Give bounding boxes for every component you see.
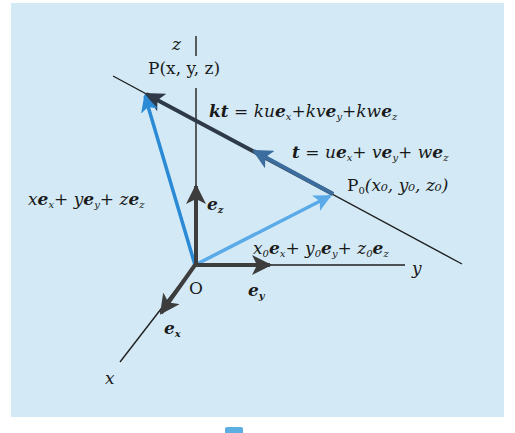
ez-label: ez xyxy=(207,196,224,215)
t-equation: t = uex+ vey+ wez xyxy=(292,144,448,163)
t-rhs: uex+ vey+ wez xyxy=(325,142,448,162)
ex-label: ex xyxy=(164,320,181,339)
y-axis-label: y xyxy=(412,260,422,277)
t-eq: = xyxy=(305,142,319,162)
kt-rhs: kuex+kvey+kwez xyxy=(254,101,398,121)
op-vector-label: xex+ yey+ zez xyxy=(28,191,145,210)
point-p-label: P(x, y, z) xyxy=(148,60,220,77)
kt-eq: = xyxy=(234,101,248,121)
t-lhs: t xyxy=(292,142,300,162)
p0-main: P xyxy=(347,175,358,195)
ey-label: ey xyxy=(248,282,265,301)
z-axis-label: z xyxy=(172,36,181,53)
origin-label: O xyxy=(189,280,203,297)
op0-vector-label: x0ex+ y0ey+ z0ez xyxy=(253,240,389,259)
point-p0-label: P0(x₀, y₀, z₀) xyxy=(347,177,448,196)
kt-equation: kt = kuex+kvey+kwez xyxy=(209,103,397,122)
op-vector xyxy=(145,96,195,265)
page-marker xyxy=(225,427,243,433)
p0-coords: (x₀, y₀, z₀) xyxy=(365,175,448,195)
x-axis-label: x xyxy=(105,370,115,387)
kt-lhs: kt xyxy=(209,101,229,121)
